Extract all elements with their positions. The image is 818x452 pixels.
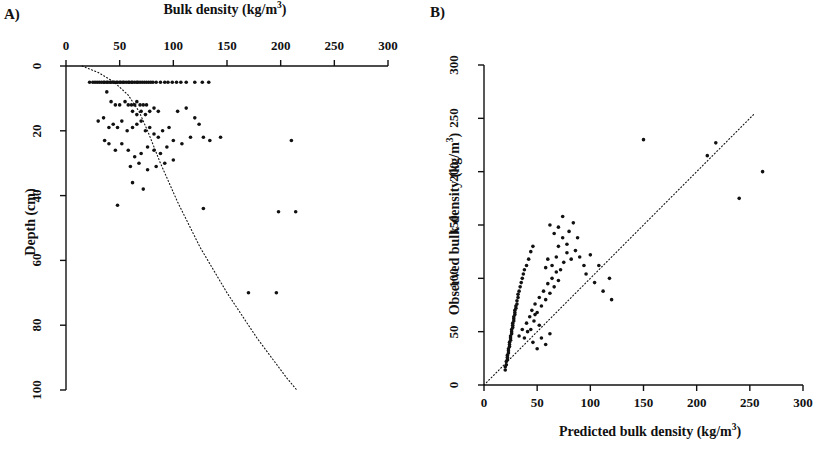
panel-b-x-tick: 300 <box>787 395 818 411</box>
panel-b-ylabel-text: Observed bulk density (kg/m <box>447 142 462 315</box>
panel-b-x-tick: 0 <box>468 395 500 411</box>
panel-b-xlabel-text: Predicted bulk density (kg/m <box>559 424 732 439</box>
panel-b-ylabel-superscript: 3 <box>445 137 455 142</box>
panel-b-y-tick: 300 <box>446 47 462 83</box>
panel-b <box>410 0 818 452</box>
panel-b-reference-line <box>484 113 755 385</box>
panel-b-y-tick: 0 <box>446 367 462 403</box>
panel-b-x-tick: 100 <box>574 395 606 411</box>
panel-b-data-points <box>503 138 764 372</box>
panel-b-x-tick: 200 <box>681 395 713 411</box>
panel-b-ylabel-tail: ) <box>447 133 462 138</box>
panel-b-x-tick: 150 <box>628 395 660 411</box>
figure-root: A) Bulk density (kg/m3) 0501001502002503… <box>0 0 818 452</box>
panel-b-y-axis-label: Observed bulk density (kg/m3) <box>447 79 463 369</box>
panel-b-x-tick: 50 <box>521 395 553 411</box>
panel-b-x-axis-label: Predicted bulk density (kg/m3) <box>505 424 795 440</box>
panel-b-canvas <box>0 0 408 452</box>
panel-b-xlabel-tail: ) <box>736 424 741 439</box>
panel-b-x-tick: 250 <box>734 395 766 411</box>
